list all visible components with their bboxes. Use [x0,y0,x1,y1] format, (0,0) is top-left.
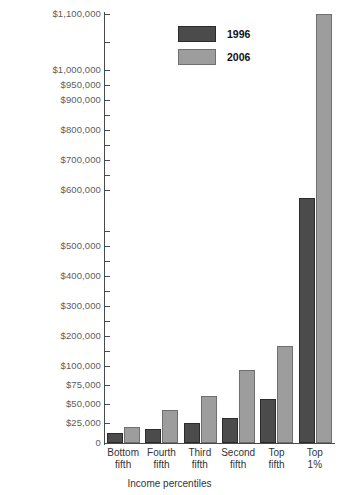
y-tick-mark [104,366,110,367]
y-tick-label: $1,100,000 [5,8,101,19]
bar-1996-0 [107,433,123,443]
y-tick-label: $500,000 [5,240,101,251]
y-tick-mark [104,336,110,337]
x-axis-label-5: Top 1% [296,447,334,470]
bar-2006-5 [316,14,332,443]
y-tick-label: $50,000 [5,398,101,409]
y-tick-mark [104,100,110,101]
legend-swatch-2006 [178,49,216,65]
y-tick-mark [104,306,110,307]
y-tick-label: $900,000 [5,94,101,105]
y-tick-label: $25,000 [5,417,101,428]
y-tick-label: $100,000 [5,360,101,371]
y-tick-mark [104,246,110,247]
x-axis-label-1: Fourth fifth [142,447,180,470]
y-tick-label: $950,000 [5,79,101,90]
y-tick-mark [104,404,110,405]
x-axis-label-3: Second fifth [219,447,257,470]
y-tick-label: $600,000 [5,184,101,195]
y-tick-mark [104,175,110,176]
bar-2006-3 [239,370,255,443]
y-tick-label: $400,000 [5,270,101,281]
y-tick-label: 0 [5,437,101,448]
y-tick-mark [104,115,110,116]
x-axis-label-2: Third fifth [181,447,219,470]
y-tick-mark [104,261,110,262]
y-tick-mark [104,70,110,71]
bar-1996-3 [222,418,238,443]
x-axis-title: Income percentiles [0,478,339,489]
y-tick-mark [104,85,110,86]
y-tick-label: $1,000,000 [5,64,101,75]
y-tick-mark [104,42,110,43]
bar-chart: 0$25,000$50,000$75,000$100,000$200,000$3… [0,0,339,495]
y-tick-mark [104,443,110,444]
legend-item-1996: 1996 [178,26,250,42]
bar-2006-0 [124,427,140,443]
bar-1996-1 [145,429,161,443]
plot-area: 0$25,000$50,000$75,000$100,000$200,000$3… [104,14,334,443]
y-tick-label: $75,000 [5,379,101,390]
y-tick-label: $200,000 [5,330,101,341]
y-tick-mark [104,321,110,322]
chart-legend: 1996 2006 [178,26,250,72]
bar-2006-1 [162,410,178,443]
legend-item-2006: 2006 [178,49,250,65]
y-tick-mark [104,160,110,161]
legend-swatch-1996 [178,26,216,42]
y-tick-mark [104,130,110,131]
y-tick-label: $800,000 [5,124,101,135]
y-tick-mark [104,14,110,15]
x-axis-label-4: Top fifth [257,447,295,470]
y-tick-mark [104,276,110,277]
bar-1996-2 [184,423,200,443]
x-axis-label-0: Bottom fifth [104,447,142,470]
bar-2006-2 [201,396,217,443]
bar-1996-4 [260,399,276,443]
y-tick-mark [104,231,110,232]
legend-label-2006: 2006 [227,51,250,63]
y-tick-mark [104,423,110,424]
y-tick-label: $300,000 [5,300,101,311]
y-tick-mark [104,385,110,386]
legend-label-1996: 1996 [227,28,250,40]
x-axis-line [104,443,335,444]
bar-1996-5 [299,198,315,443]
y-tick-mark [104,190,110,191]
y-tick-label: $700,000 [5,154,101,165]
y-tick-mark [104,351,110,352]
bar-2006-4 [277,346,293,443]
y-tick-mark [104,145,110,146]
y-tick-mark [104,291,110,292]
